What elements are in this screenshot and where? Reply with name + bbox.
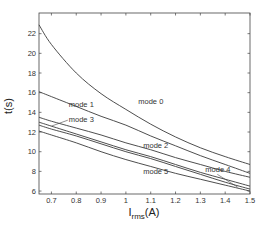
x-tick-label: 1.2 — [170, 196, 180, 205]
x-axis-label-unit: (A) — [145, 206, 160, 218]
x-tick-label: 0.9 — [96, 196, 106, 205]
y-tick-label: 14 — [28, 108, 36, 117]
label-mode-2: mode 2 — [143, 141, 168, 150]
y-tick-label: 8 — [32, 167, 36, 176]
x-tick-label: 0.8 — [71, 196, 81, 205]
label-mode-3: mode 3 — [69, 115, 94, 124]
x-tick-label: 1.1 — [145, 196, 155, 205]
x-tick-label: 1.5 — [245, 196, 255, 205]
curve-mode-4 — [39, 125, 250, 189]
y-tick-label: 12 — [28, 128, 36, 137]
x-tick-label: 1.4 — [220, 196, 230, 205]
y-tick-label: 20 — [28, 49, 36, 58]
x-tick-label: 0.7 — [46, 196, 56, 205]
x-tick-label: 1.3 — [195, 196, 205, 205]
label-mode-1: mode 1 — [69, 100, 94, 109]
chart: mode 0mode 1mode 2mode 3mode 4mode 5 0.7… — [0, 0, 267, 237]
x-axis-label: Irms(A) — [128, 206, 159, 221]
label-mode-0: mode 0 — [138, 97, 163, 106]
y-tick-label: 6 — [32, 187, 36, 196]
y-tick-label: 18 — [28, 69, 36, 78]
label-mode-4: mode 4 — [205, 165, 230, 174]
x-axis-label-sub: rms — [132, 212, 145, 221]
y-tick-label: 16 — [28, 88, 36, 97]
y-tick-label: 22 — [28, 29, 36, 38]
mode-labels-layer: mode 0mode 1mode 2mode 3mode 4mode 5 — [51, 97, 237, 188]
label-mode-5: mode 5 — [143, 167, 168, 176]
x-tick-label: 1 — [124, 196, 128, 205]
y-tick-label: 10 — [28, 147, 36, 156]
y-axis-label: t(s) — [2, 98, 14, 114]
